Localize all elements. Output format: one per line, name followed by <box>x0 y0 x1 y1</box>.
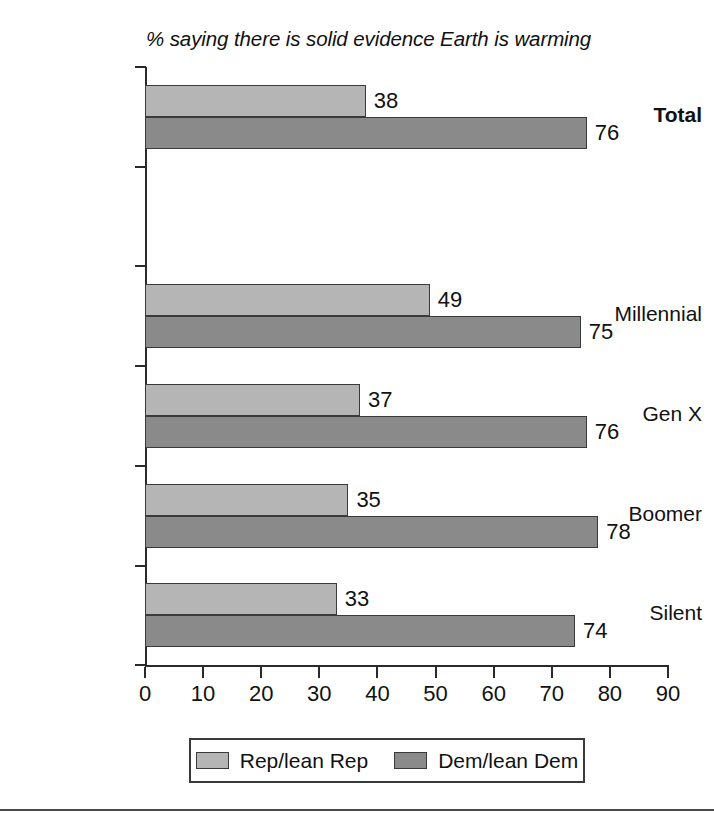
x-axis-tick-label: 30 <box>289 681 349 707</box>
bar-value-silent-rep: 33 <box>345 588 369 610</box>
legend-swatch-icon <box>196 752 229 769</box>
x-axis-tick <box>493 667 495 678</box>
x-axis-tick-label: 40 <box>347 681 407 707</box>
x-axis-tick-label: 90 <box>638 681 698 707</box>
bar-millennial-dem <box>145 316 581 348</box>
bar-value-millennial-dem: 75 <box>589 321 613 343</box>
x-axis-tick <box>318 667 320 678</box>
y-axis-tick <box>135 265 146 267</box>
y-axis-tick <box>135 166 146 168</box>
x-axis-tick <box>667 667 669 678</box>
legend-swatch-icon <box>394 752 427 769</box>
bar-value-silent-dem: 74 <box>583 620 607 642</box>
bar-value-gen-x-dem: 76 <box>595 421 619 443</box>
bar-value-total-rep: 38 <box>374 90 398 112</box>
bar-gen-x-rep <box>145 384 360 416</box>
chart-title: % saying there is solid evidence Earth i… <box>146 27 591 51</box>
bar-chart-figure: % saying there is solid evidence Earth i… <box>0 0 714 828</box>
legend-item-dem[interactable]: Dem/lean Dem <box>394 749 578 773</box>
x-axis-tick-label: 0 <box>115 681 175 707</box>
y-axis-tick <box>135 565 146 567</box>
x-axis-tick <box>435 667 437 678</box>
y-axis-tick <box>135 664 146 666</box>
y-axis-tick <box>135 66 146 68</box>
x-axis-tick <box>202 667 204 678</box>
bar-total-dem <box>145 117 587 149</box>
x-axis-tick-label: 20 <box>231 681 291 707</box>
x-axis-tick-label: 60 <box>464 681 524 707</box>
bar-silent-dem <box>145 615 575 647</box>
x-axis-tick <box>376 667 378 678</box>
x-axis-line <box>145 665 669 667</box>
x-axis-tick-label: 80 <box>580 681 640 707</box>
category-label-boomer: Boomer <box>580 502 714 526</box>
bar-silent-rep <box>145 583 337 615</box>
bar-value-total-dem: 76 <box>595 122 619 144</box>
legend-item-rep[interactable]: Rep/lean Rep <box>196 749 368 773</box>
bar-gen-x-dem <box>145 416 587 448</box>
x-axis-tick-label: 70 <box>522 681 582 707</box>
bar-value-millennial-rep: 49 <box>438 289 462 311</box>
bar-value-boomer-rep: 35 <box>356 489 380 511</box>
bar-millennial-rep <box>145 284 430 316</box>
bar-total-rep <box>145 85 366 117</box>
x-axis-tick-label: 10 <box>173 681 233 707</box>
x-axis-tick <box>144 667 146 678</box>
legend-label: Dem/lean Dem <box>438 749 578 773</box>
bottom-divider <box>0 809 714 811</box>
y-axis-tick <box>135 465 146 467</box>
x-axis-tick-label: 50 <box>406 681 466 707</box>
bar-boomer-rep <box>145 484 348 516</box>
x-axis-tick <box>551 667 553 678</box>
bar-boomer-dem <box>145 516 598 548</box>
bar-value-boomer-dem: 78 <box>606 521 630 543</box>
y-axis-tick <box>135 365 146 367</box>
x-axis-tick <box>609 667 611 678</box>
x-axis-tick <box>260 667 262 678</box>
legend-label: Rep/lean Rep <box>240 749 368 773</box>
bar-value-gen-x-rep: 37 <box>368 389 392 411</box>
chart-legend: Rep/lean RepDem/lean Dem <box>189 738 585 783</box>
